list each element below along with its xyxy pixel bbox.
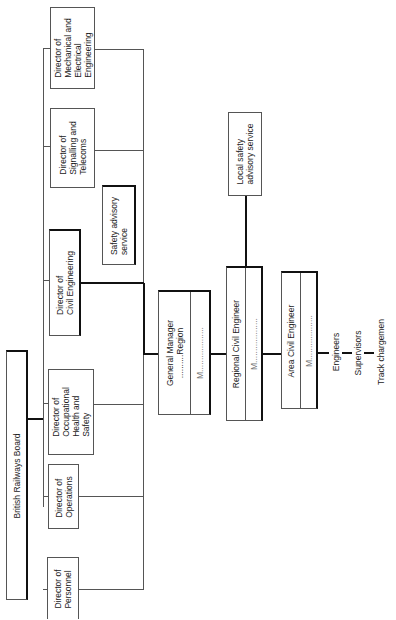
conn-ops [79, 496, 144, 497]
safety-advisory-box: Safety advisory service [102, 185, 136, 265]
board-connector [27, 418, 43, 420]
british-railways-board-box: British Railways Board [6, 350, 28, 600]
director-left-spine-2 [43, 170, 44, 507]
conn-sig [94, 150, 144, 151]
track-chargemen-label: Track chargemen [376, 319, 386, 385]
ace-title: Area Civil Engineer [286, 304, 296, 377]
ace-name-field: M................... [304, 315, 314, 367]
local-safety-connector [245, 194, 247, 268]
safety-advisory-label: Safety advisory service [109, 196, 129, 254]
director-operations-box: Director of Operations [48, 464, 79, 529]
general-manager-box: General Manager ..........Region M......… [158, 290, 211, 415]
stub-sig [43, 146, 50, 147]
conn-personnel [79, 589, 144, 590]
director-personnel-box: Director of Personnel [47, 557, 79, 619]
director-ohs-box: Director of Occupational Health and Safe… [48, 369, 94, 455]
director-label: Director of Occupational Health and Safe… [51, 387, 91, 437]
gm-name-field: M................... [195, 327, 205, 379]
supervisors-label: Supervisors [353, 331, 363, 376]
director-label: Director of Signalling and Telecoms [58, 121, 88, 174]
conn-mech [94, 49, 144, 50]
board-label: British Railways Board [12, 433, 22, 518]
director-label: Director of Mechanical and Electrical En… [53, 18, 93, 78]
director-mech-elec-box: Director of Mechanical and Electrical En… [50, 7, 95, 89]
area-civil-engineer-box: Area Civil Engineer M................... [281, 271, 318, 409]
rce-title: Regional Civil Engineer [231, 300, 241, 388]
gm-input [143, 353, 159, 355]
gm-to-rce [210, 353, 227, 355]
engineers-to-supervisors [342, 352, 352, 354]
conn-ohs [94, 404, 144, 405]
director-left-spine [43, 48, 44, 170]
supervisors-to-track [364, 352, 374, 354]
ace-to-engineers [317, 352, 329, 354]
stub-mech [43, 48, 50, 49]
director-label: Director of Operations [54, 476, 74, 518]
gm-title: General Manager ..........Region [165, 320, 185, 386]
regional-civil-engineer-box: Regional Civil Engineer M...............… [226, 266, 263, 421]
conn-civil [80, 282, 144, 284]
director-civil-box: Director of Civil Engineering [49, 229, 81, 336]
civil-to-gm [143, 283, 145, 355]
rce-to-ace [262, 353, 282, 355]
director-signalling-box: Director of Signalling and Telecoms [50, 108, 95, 188]
director-label: Director of Civil Engineering [55, 251, 75, 315]
director-label: Director of Personnel [53, 569, 73, 608]
local-safety-label: Local safety advisory service [235, 124, 255, 185]
engineers-label: Engineers [331, 333, 341, 371]
rce-name-field: M................... [249, 318, 259, 370]
local-safety-advisory-box: Local safety advisory service [228, 112, 262, 196]
